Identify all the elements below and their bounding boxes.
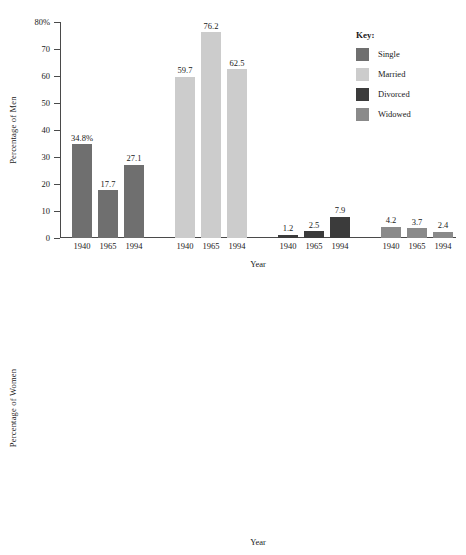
bar-widowed-1940: 4.21940: [381, 227, 401, 238]
bar-value-label: 59.7: [178, 65, 193, 75]
chart-panel-women: Percentage of Women 01020304050607080%27…: [0, 278, 466, 555]
y-axis-tick: 60: [54, 76, 60, 77]
y-axis-tick-label: 30: [42, 152, 51, 162]
x-axis-tick-label: 1940: [280, 241, 297, 251]
y-axis-tick-label: 0: [46, 233, 50, 243]
legend-item-label: Divorced: [378, 89, 410, 99]
legend-item-married: Married: [356, 65, 460, 83]
legend-item-divorced: Divorced: [356, 85, 460, 103]
chart-page: Percentage of Men 01020304050607080%34.8…: [0, 0, 466, 555]
bar-divorced-1965: 2.51965: [304, 231, 324, 238]
bar-divorced-1994: 7.91994: [330, 217, 350, 238]
x-axis-tick-label: 1994: [229, 241, 246, 251]
legend-swatch-icon: [356, 68, 369, 81]
x-axis-tick-label: 1965: [306, 241, 323, 251]
y-axis-tick: 0: [54, 238, 60, 239]
x-axis-tick-label: 1940: [177, 241, 194, 251]
legend-item-label: Widowed: [378, 109, 411, 119]
y-axis-tick: 80%: [54, 22, 60, 23]
bar-value-label: 62.5: [230, 58, 245, 68]
x-axis-tick-label: 1940: [383, 241, 400, 251]
x-axis-title-men: Year: [60, 259, 456, 269]
bar-married-1965: 76.21965: [201, 32, 221, 238]
y-axis-title-men: Percentage of Men: [6, 22, 20, 238]
y-axis-tick: 20: [54, 184, 60, 185]
y-axis-tick-label: 50: [42, 98, 51, 108]
y-axis-tick-label: 20: [42, 179, 51, 189]
bar-value-label: 2.4: [438, 220, 449, 230]
x-axis-tick-label: 1965: [409, 241, 426, 251]
bar-divorced-1940: 1.21940: [278, 235, 298, 238]
legend-swatch-icon: [356, 108, 369, 121]
bar-widowed-1965: 3.71965: [407, 228, 427, 238]
bar-widowed-1994: 2.41994: [433, 232, 453, 238]
y-axis-tick: 40: [54, 130, 60, 131]
bar-value-label: 34.8%: [71, 133, 93, 143]
y-axis-title-women: Percentage of Women: [6, 300, 20, 516]
bar-value-label: 17.7: [101, 179, 116, 189]
x-axis-tick-label: 1965: [100, 241, 117, 251]
legend: Key: SingleMarriedDivorcedWidowed: [356, 30, 460, 125]
x-axis-title-women: Year: [60, 537, 456, 547]
y-axis-tick: 10: [54, 211, 60, 212]
bar-value-label: 3.7: [412, 217, 423, 227]
x-axis-tick-label: 1940: [74, 241, 91, 251]
legend-item-single: Single: [356, 45, 460, 63]
y-axis-tick-label: 10: [42, 206, 51, 216]
legend-item-label: Married: [378, 69, 405, 79]
bar-single-1994: 27.11994: [124, 165, 144, 238]
legend-title: Key:: [356, 30, 460, 40]
bar-value-label: 76.2: [204, 21, 219, 31]
bar-single-1940: 34.8%1940: [72, 144, 92, 238]
y-axis-tick: 30: [54, 157, 60, 158]
legend-entries: SingleMarriedDivorcedWidowed: [356, 45, 460, 123]
x-axis-tick-label: 1994: [435, 241, 452, 251]
x-axis-tick-label: 1965: [203, 241, 220, 251]
y-axis-line-men: [60, 22, 61, 238]
bar-married-1940: 59.71940: [175, 77, 195, 238]
y-axis-tick: 70: [54, 49, 60, 50]
bar-value-label: 2.5: [309, 220, 320, 230]
y-axis-tick-label: 70: [42, 44, 51, 54]
bar-value-label: 7.9: [335, 205, 346, 215]
y-axis-tick-label: 40: [42, 125, 51, 135]
legend-item-widowed: Widowed: [356, 105, 460, 123]
bar-value-label: 27.1: [127, 153, 142, 163]
legend-swatch-icon: [356, 48, 369, 61]
bar-married-1994: 62.51994: [227, 69, 247, 238]
bar-value-label: 4.2: [386, 215, 397, 225]
legend-item-label: Single: [378, 49, 400, 59]
legend-swatch-icon: [356, 88, 369, 101]
x-axis-tick-label: 1994: [126, 241, 143, 251]
y-axis-tick-label: 80%: [34, 17, 50, 27]
y-axis-tick: 50: [54, 103, 60, 104]
x-axis-tick-label: 1994: [332, 241, 349, 251]
bar-value-label: 1.2: [283, 223, 294, 233]
bar-single-1965: 17.71965: [98, 190, 118, 238]
y-axis-tick-label: 60: [42, 71, 51, 81]
